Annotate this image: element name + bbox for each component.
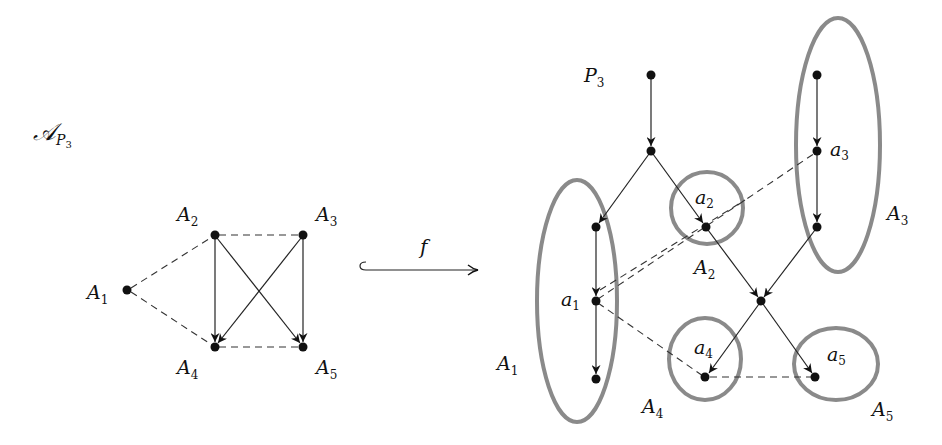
node-split — [647, 147, 656, 156]
element-label-a3: a3 — [830, 138, 849, 163]
node-a4 — [211, 343, 220, 352]
dashed-edge-a1-a4 — [131, 292, 212, 345]
map-f: f — [360, 235, 478, 270]
element-label-a2: a2 — [695, 186, 714, 211]
node-a1 — [123, 286, 132, 295]
dashed-edge-a1-a2 — [131, 237, 212, 288]
label-a4: A4 — [175, 356, 199, 382]
region-label-a4: A4 — [640, 395, 664, 421]
label-a2: A2 — [175, 203, 198, 229]
edge-a2-a5 — [217, 238, 300, 343]
element-label-a4: a4 — [694, 336, 713, 361]
element-label-a1: a1 — [561, 288, 580, 313]
node-a5 — [811, 373, 820, 382]
map-label: f — [418, 235, 431, 259]
edge-a3-center — [764, 230, 815, 297]
edge-split-left — [599, 154, 649, 223]
edge-a2-center — [708, 230, 758, 297]
right-graph: P3 a1 a2 a3 a4 a5 A1 A2 A3 A4 A5 — [495, 18, 908, 424]
left-graph: 𝒜P3 A1 A2 A3 A4 A5 — [33, 118, 337, 382]
hooked-arrow-icon — [360, 262, 478, 270]
label-a1: A1 — [85, 281, 108, 307]
node-left-bottom — [592, 375, 601, 384]
node-a3-bottom — [813, 223, 822, 232]
region-label-a3: A3 — [885, 202, 908, 228]
label-a5: A5 — [314, 356, 337, 382]
node-p-top — [647, 71, 656, 80]
region-label-a2: A2 — [692, 256, 715, 282]
poset-label: P3 — [583, 64, 604, 90]
node-a2 — [211, 231, 220, 240]
node-a5 — [299, 343, 308, 352]
node-center — [757, 297, 766, 306]
diagram-canvas: 𝒜P3 A1 A2 A3 A4 A5 f — [0, 0, 942, 445]
node-a3-top — [813, 71, 822, 80]
element-label-a5: a5 — [827, 343, 846, 368]
graph-title: 𝒜P3 — [33, 118, 72, 150]
node-a3 — [813, 147, 822, 156]
node-left-top — [592, 223, 601, 232]
edge-a3-a4 — [218, 238, 301, 343]
node-a4 — [701, 373, 710, 382]
node-a1 — [592, 297, 601, 306]
label-a3: A3 — [314, 203, 337, 229]
node-a3 — [299, 231, 308, 240]
region-label-a5: A5 — [870, 398, 893, 424]
edge-center-a4 — [709, 304, 759, 373]
node-a2 — [702, 223, 711, 232]
region-label-a1: A1 — [495, 352, 518, 378]
